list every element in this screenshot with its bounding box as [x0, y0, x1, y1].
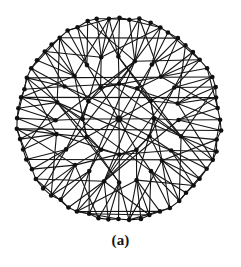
circular-graph-diagram [0, 0, 241, 236]
figure-caption: (a) [0, 232, 241, 249]
figure-container: (a) [0, 0, 241, 267]
